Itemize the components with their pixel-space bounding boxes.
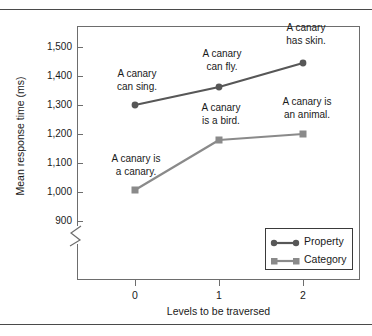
y-tick-label-1200: 1,200 xyxy=(27,129,72,139)
line-chart-figure: 1,500 1,400 1,300 1,200 1,100 1,000 900 … xyxy=(0,10,372,324)
annotation-category-0: A canary is a canary. xyxy=(93,153,179,178)
legend-label-property: Property xyxy=(304,235,344,247)
legend-label-category: Category xyxy=(304,253,347,265)
legend-item-category[interactable]: Category xyxy=(270,250,348,268)
x-tick-label-2: 2 xyxy=(288,289,318,301)
y-tick-1500 xyxy=(77,47,83,48)
x-tick-0 xyxy=(135,280,136,286)
x-tick-2 xyxy=(303,280,304,286)
y-tick-1200 xyxy=(77,134,83,135)
y-tick-1000 xyxy=(77,192,83,193)
y-axis-tick-labels: 1,500 1,400 1,300 1,200 1,100 1,000 900 xyxy=(20,10,72,270)
annotation-property-2: A canary has skin. xyxy=(266,22,346,47)
y-tick-1300 xyxy=(77,105,83,106)
legend-key-category-icon xyxy=(270,253,300,265)
legend-key-property-icon xyxy=(270,235,300,247)
y-tick-label-900: 900 xyxy=(27,216,72,226)
y-tick-label-1000: 1,000 xyxy=(27,187,72,197)
annotation-category-1: A canary is a bird. xyxy=(181,102,261,127)
y-axis-title: Mean response time (ms) xyxy=(14,36,26,236)
bottom-horizontal-rule xyxy=(0,324,372,325)
annotation-property-0: A canary can sing. xyxy=(97,68,177,93)
y-tick-1400 xyxy=(77,76,83,77)
annotation-category-2: A canary is an animal. xyxy=(263,96,351,121)
y-tick-label-1100: 1,100 xyxy=(27,158,72,168)
x-tick-1 xyxy=(219,280,220,286)
y-tick-900 xyxy=(77,221,83,222)
x-tick-label-0: 0 xyxy=(120,289,150,301)
y-axis-upper-line xyxy=(77,26,78,226)
x-axis-title: Levels to be traversed xyxy=(77,305,360,317)
y-tick-label-1500: 1,500 xyxy=(27,42,72,52)
y-axis-lower-line xyxy=(77,244,78,280)
legend-item-property[interactable]: Property xyxy=(270,232,348,250)
y-tick-label-1400: 1,400 xyxy=(27,71,72,81)
annotation-property-1: A canary can fly. xyxy=(182,48,262,73)
y-tick-label-1300: 1,300 xyxy=(27,100,72,110)
y-tick-1100 xyxy=(77,163,83,164)
x-tick-label-1: 1 xyxy=(204,289,234,301)
legend-box: Property Category xyxy=(265,228,353,270)
